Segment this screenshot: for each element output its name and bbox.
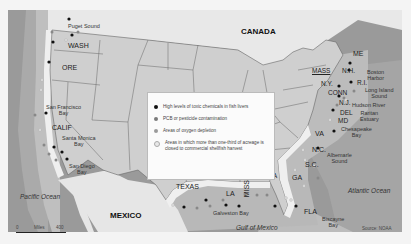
map-legend: High levels of toxic chemicals in fish l… — [147, 92, 275, 180]
label-ri: R.I. — [357, 80, 367, 87]
label-ny: N.Y. — [321, 81, 333, 88]
label-ore: ORE — [62, 64, 77, 71]
label-ga: GA — [292, 174, 302, 181]
label-albemarle-sound: AlbemarleSound — [327, 153, 352, 164]
legend-item-pcb: PCB or pesticide contamination — [154, 116, 267, 122]
label-nj: N.J. — [339, 100, 351, 107]
label-gulf-of-mexico: Gulf of Mexico — [236, 225, 278, 232]
label-puget-sound: Puget Sound — [68, 24, 100, 30]
source-credit: Source: NOAA — [362, 226, 392, 231]
scale-line — [16, 232, 66, 233]
scale-end: 400 — [56, 225, 64, 230]
label-wash: WASH — [68, 42, 89, 49]
label-conn: CONN — [328, 90, 347, 97]
label-nh: N.H. — [342, 68, 355, 75]
label-mexico: MEXICO — [110, 212, 142, 220]
label-texas: TEXAS — [176, 183, 199, 190]
label-sc: S.C. — [305, 161, 319, 168]
label-mass: MASS — [312, 68, 330, 75]
label-boston-harbor: BostonHarbor — [367, 70, 384, 81]
label-la: LA — [226, 190, 235, 197]
label-santa-monica-bay: Santa MonicaBay — [62, 136, 96, 147]
label-long-island-sound: Long IslandSound — [365, 88, 393, 99]
label-calif: CALIF — [52, 124, 72, 131]
label-san-diego-bay: San DiegoBay — [69, 164, 95, 175]
gray-dot-icon — [154, 129, 158, 133]
label-me: ME — [353, 50, 364, 57]
label-md: MD — [338, 118, 348, 125]
scale-unit: Miles — [34, 225, 45, 230]
label-hudson-river: Hudson River — [352, 103, 385, 109]
black-dot-icon — [154, 105, 158, 109]
label-miss: MISS — [243, 180, 250, 197]
label-del: DEL — [340, 110, 353, 117]
label-raritan-estuary: RaritanEstuary — [360, 111, 379, 122]
label-canada: CANADA — [241, 28, 276, 36]
legend-item-shellfish: Areas in which more than one-third of ac… — [154, 140, 269, 151]
dark-gray-dot-icon — [154, 117, 158, 121]
label-atlantic-ocean: Atlantic Ocean — [348, 188, 390, 195]
label-pacific-ocean: Pacific Ocean — [20, 194, 60, 201]
label-san-francisco-bay: San FranciscoBay — [46, 105, 81, 116]
legend-item-oxygen: Areas of oxygen depletion — [154, 128, 267, 134]
label-fla: FLA — [304, 208, 317, 215]
label-va: VA — [315, 130, 324, 137]
label-biscayne-bay: BiscayneBay — [322, 217, 344, 228]
scale-start: 0 — [16, 225, 19, 230]
label-chesapeake-bay: ChesapeakeBay — [341, 127, 372, 138]
label-nc: N.C. — [312, 146, 326, 153]
legend-item-toxic-fish: High levels of toxic chemicals in fish l… — [154, 104, 267, 110]
light-dot-icon — [154, 141, 160, 147]
label-galveston-bay: Galveston Bay — [213, 211, 249, 217]
